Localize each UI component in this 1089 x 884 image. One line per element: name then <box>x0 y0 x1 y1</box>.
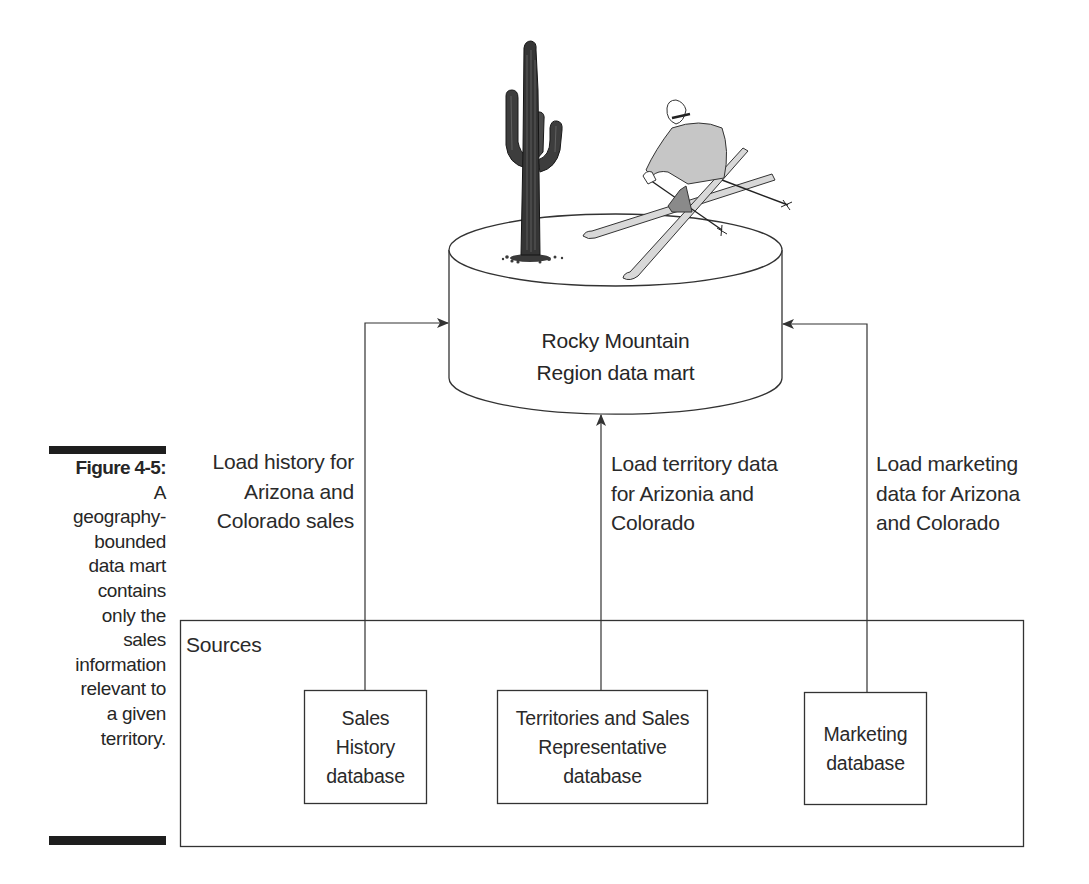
marketing-arrow <box>783 324 867 692</box>
sales-history-flow-label: Load history for Arizona and Colorado sa… <box>212 447 354 536</box>
box-label-line: database <box>326 762 405 791</box>
box-label-line: database <box>824 749 908 778</box>
flow-label-line: and Colorado <box>876 508 1020 538</box>
flow-label-line: Colorado <box>611 508 778 538</box>
sources-title: Sources <box>186 633 262 657</box>
data-mart-label: Rocky Mountain Region data mart <box>449 325 782 389</box>
flow-label-line: for Arizonia and <box>611 479 778 509</box>
flow-label-line: Load history for <box>212 447 354 477</box>
sales-history-arrow <box>365 323 448 690</box>
data-mart-title-line: Rocky Mountain <box>449 325 782 357</box>
flow-label-line: Load marketing <box>876 449 1020 479</box>
box-label-line: Territories and Sales <box>516 704 690 733</box>
marketing-db-label: Marketing database <box>805 693 926 804</box>
flow-label-line: Load territory data <box>611 449 778 479</box>
territories-db-label: Territories and Sales Representative dat… <box>498 691 707 803</box>
box-label-line: Representative <box>516 733 690 762</box>
flow-label-line: Arizona and <box>212 477 354 507</box>
flow-label-line: Colorado sales <box>212 506 354 536</box>
box-label-line: Sales <box>326 704 405 733</box>
territory-flow-label: Load territory data for Arizonia and Col… <box>611 449 778 538</box>
box-label-line: Marketing <box>824 720 908 749</box>
data-mart-title-line: Region data mart <box>449 357 782 389</box>
flow-label-line: data for Arizona <box>876 479 1020 509</box>
sales-history-db-label: Sales History database <box>305 691 426 803</box>
marketing-flow-label: Load marketing data for Arizona and Colo… <box>876 449 1020 538</box>
box-label-line: History <box>326 733 405 762</box>
box-label-line: database <box>516 762 690 791</box>
